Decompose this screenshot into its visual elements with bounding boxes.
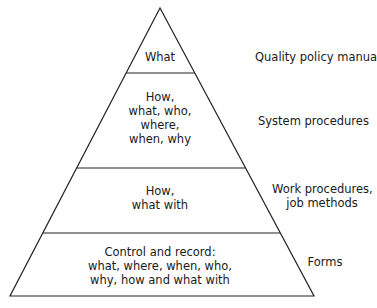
- line: job methods: [272, 196, 372, 210]
- line: Control and record:: [85, 245, 235, 259]
- line: Quality policy manual: [255, 50, 370, 64]
- line: when, why: [110, 132, 210, 146]
- line: How,: [110, 184, 210, 198]
- line: Work procedures,: [272, 182, 372, 196]
- level-3-label: Work procedures, job methods: [272, 182, 372, 210]
- line: What: [130, 50, 190, 64]
- line: what, who,: [110, 104, 210, 118]
- line: what with: [110, 198, 210, 212]
- level-1-label: Quality policy manual: [255, 50, 370, 64]
- level-2-label: System procedures: [258, 114, 368, 128]
- level-4-label: Forms: [300, 255, 350, 269]
- level-4-text: Control and record: what, where, when, w…: [85, 245, 235, 287]
- line: where,: [110, 118, 210, 132]
- line: Forms: [300, 255, 350, 269]
- level-3-text: How, what with: [110, 184, 210, 212]
- line: How,: [110, 90, 210, 104]
- level-1-text: What: [130, 50, 190, 64]
- line: why, how and what with: [85, 273, 235, 287]
- level-2-text: How, what, who, where, when, why: [110, 90, 210, 146]
- line: System procedures: [258, 114, 368, 128]
- line: what, where, when, who,: [85, 259, 235, 273]
